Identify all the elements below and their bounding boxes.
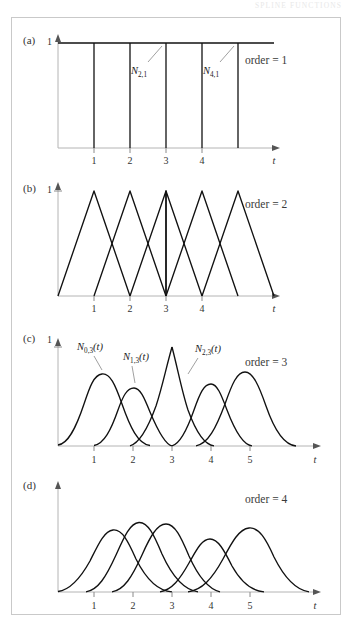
panel-b-x-axis-label: t: [273, 303, 277, 314]
svg-text:N1,3(t): N1,3(t): [122, 351, 149, 365]
panel-c-axes: [54, 338, 321, 449]
panel-c-fn0-sub: 0,3: [84, 347, 93, 355]
panel-a-tick-3: 3: [164, 155, 169, 166]
panel-a-annotation-n41: N4,1: [202, 46, 234, 79]
panel-c-fn1-sub: 1,3: [130, 357, 139, 365]
panel-b-tick-2: 2: [128, 303, 133, 314]
panel-b-ticks: [94, 296, 202, 301]
panel-b-tick-1: 1: [92, 303, 97, 314]
panel-d-curves: [58, 522, 309, 591]
panel-c-fn1-paren: (t): [139, 351, 149, 363]
panel-a: (a) 1 order = 1: [12, 22, 342, 170]
panel-c-tick-3: 3: [170, 454, 175, 465]
panel-b-plot: 1 2 3 4 t: [12, 170, 342, 318]
svg-text:N2,3(t): N2,3(t): [194, 343, 221, 357]
panel-a-tick-2: 2: [128, 155, 133, 166]
panel-c-tick-5: 5: [248, 454, 253, 465]
panel-a-annotation-n21: N2,1: [130, 46, 162, 79]
panel-c-annotation-n13: N1,3(t): [122, 351, 149, 383]
panel-b-tick-3: 3: [164, 303, 169, 314]
svg-text:N2,1: N2,1: [130, 65, 147, 79]
panel-b: (b) 1 order = 2: [12, 170, 342, 318]
panel-d: (d) order = 4: [12, 469, 342, 615]
panel-c-tick-4: 4: [209, 454, 214, 465]
svg-text:N4,1: N4,1: [202, 65, 219, 79]
panel-c: (c) 1 order = 3: [12, 318, 342, 469]
panel-b-axes: [54, 182, 280, 299]
panel-d-tick-3: 3: [170, 600, 175, 611]
panel-d-x-axis-label: t: [314, 600, 318, 611]
panel-a-ticks: [94, 148, 202, 153]
panel-b-tick-4: 4: [200, 303, 205, 314]
panel-c-tick-1: 1: [92, 454, 97, 465]
figure-container: (a) 1 order = 1: [11, 17, 341, 615]
panel-d-tick-4: 4: [209, 600, 214, 611]
panel-d-tick-2: 2: [131, 600, 136, 611]
panel-d-ticks: [94, 592, 250, 597]
panel-c-curves: [58, 347, 296, 446]
panel-a-plot: 1 2 3 4 t N2,1 N4,1: [12, 22, 342, 170]
panel-c-annotation-n03: N0,3(t): [76, 341, 103, 370]
panel-c-x-axis-label: t: [314, 454, 318, 465]
panel-d-plot: 1 2 3 4 5 t: [12, 469, 342, 615]
panel-a-fn1-sub: 4,1: [210, 71, 219, 79]
svg-text:N0,3(t): N0,3(t): [76, 341, 103, 355]
panel-c-fn0-paren: (t): [93, 341, 103, 353]
panel-c-plot: 1 2 3 4 5 t N0,3(t) N1,3(t) N2,3: [12, 318, 342, 469]
panel-c-annotation-n23: N2,3(t): [188, 343, 221, 374]
panel-d-tick-1: 1: [92, 600, 97, 611]
panel-c-fn2-paren: (t): [211, 343, 221, 355]
panel-c-ticks: [94, 446, 250, 451]
running-head: SPLINE FUNCTIONS: [255, 1, 342, 10]
panel-c-tick-2: 2: [131, 454, 136, 465]
panel-c-fn2-sub: 2,3: [202, 349, 211, 357]
panel-a-fn0-sub: 2,1: [138, 71, 147, 79]
panel-b-curves: [58, 191, 274, 296]
panel-d-tick-5: 5: [248, 600, 253, 611]
panel-d-axes: [55, 481, 321, 595]
panel-a-axes: [55, 34, 280, 151]
panel-a-curves: [58, 43, 274, 148]
panel-a-x-axis-label: t: [273, 155, 277, 166]
panel-a-tick-1: 1: [92, 155, 97, 166]
panel-a-tick-4: 4: [200, 155, 205, 166]
